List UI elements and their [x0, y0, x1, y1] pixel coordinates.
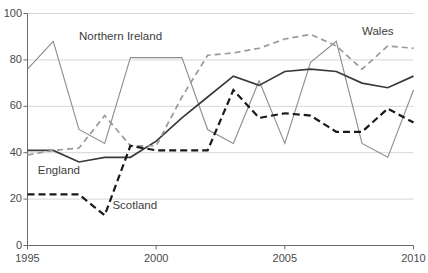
series-label-england: England	[38, 165, 80, 177]
series-label-northern-ireland: Northern Ireland	[79, 31, 162, 43]
chart-plot-area	[0, 0, 428, 273]
y-axis-tick-label: 60	[0, 100, 22, 111]
y-axis-tick-label: 20	[0, 193, 22, 204]
y-axis-tick-label: 100	[0, 8, 22, 19]
series-line-england	[28, 69, 414, 162]
y-axis-tick-label: 0	[0, 240, 22, 251]
x-axis-tick-label: 2010	[394, 253, 428, 264]
series-label-wales: Wales	[362, 26, 394, 38]
x-axis-tick-label: 1995	[8, 253, 48, 264]
y-axis-tick-label: 40	[0, 147, 22, 158]
y-axis-tick-label: 80	[0, 54, 22, 65]
line-chart: 0204060801001995200020052010Northern Ire…	[0, 0, 428, 273]
x-axis-tick-label: 2005	[265, 253, 305, 264]
x-axis-tick-label: 2000	[136, 253, 176, 264]
series-label-scotland: Scotland	[112, 200, 157, 212]
